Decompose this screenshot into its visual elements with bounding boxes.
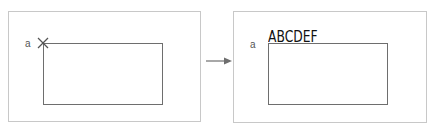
after-rectangle: [268, 43, 388, 105]
before-point-label: a: [25, 39, 31, 49]
inserted-text: ABCDEF: [268, 30, 318, 45]
cross-marker-icon: [37, 37, 49, 49]
after-point-label: a: [250, 40, 256, 50]
arrow-right-icon: [205, 56, 233, 66]
before-rectangle: [43, 43, 163, 105]
